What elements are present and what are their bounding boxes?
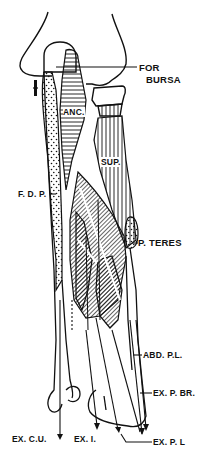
label-pronator-teres: P. TERES: [138, 238, 182, 248]
label-supinator: SUP.: [101, 157, 121, 167]
label-ex-cu: EX. C.U.: [12, 434, 47, 444]
label-fdp: F. D. P.: [18, 189, 46, 199]
label-ex-pbr: EX. P. BR.: [153, 388, 195, 398]
label-for-bursa-line2: BURSA: [146, 75, 181, 85]
label-ex-pl: EX. P. L: [153, 437, 185, 447]
anconeus-area: [60, 49, 86, 190]
pronator-teres-area: [125, 217, 138, 248]
label-abd-pl: ABD. P.L.: [143, 350, 182, 360]
label-ex-i: EX. I.: [74, 434, 96, 444]
tendon-arrowheads: [57, 423, 149, 440]
label-anconeus: ANC.: [63, 107, 85, 117]
radius-head: [92, 86, 125, 116]
label-for-bursa-line1: FOR: [139, 63, 160, 73]
